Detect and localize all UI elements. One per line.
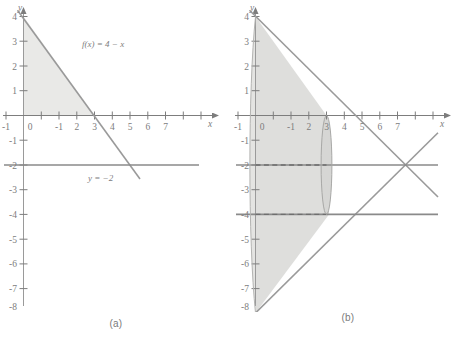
- svg-text:-1: -1: [2, 122, 10, 132]
- svg-text:2: 2: [12, 62, 17, 72]
- svg-text:0: 0: [28, 122, 33, 132]
- svg-text:-1: -1: [55, 122, 63, 132]
- svg-text:-4: -4: [9, 210, 17, 220]
- x-axis-label: x: [207, 119, 213, 129]
- svg-text:-1: -1: [241, 136, 249, 146]
- plot-a-svg: -1 0 -1 2 3 4 5 6 7 4 3 2 1 -1 -2: [0, 0, 232, 312]
- svg-text:2: 2: [244, 62, 249, 72]
- svg-text:7: 7: [163, 122, 168, 132]
- svg-text:4: 4: [12, 12, 17, 22]
- plot-b-svg: -1 0 -1 2 3 4 5 6 7 4 3 2 1 -1 -2: [232, 0, 464, 312]
- svg-text:4: 4: [110, 122, 115, 132]
- y-axis-label: y: [249, 3, 255, 13]
- svg-text:-8: -8: [241, 302, 249, 312]
- svg-text:-7: -7: [241, 284, 249, 294]
- panel-a-caption: (a): [0, 318, 232, 329]
- svg-text:0: 0: [260, 122, 265, 132]
- svg-text:-5: -5: [9, 235, 17, 245]
- svg-text:1: 1: [12, 86, 17, 96]
- svg-text:-1: -1: [287, 122, 295, 132]
- svg-text:-3: -3: [241, 185, 249, 195]
- svg-text:2: 2: [74, 122, 79, 132]
- svg-text:-2: -2: [9, 161, 17, 171]
- svg-text:-4: -4: [241, 210, 249, 220]
- svg-text:-2: -2: [241, 161, 249, 171]
- panel-a: -1 0 -1 2 3 4 5 6 7 4 3 2 1 -1 -2: [0, 0, 232, 343]
- y-axis-label: y: [17, 3, 23, 13]
- panel-b: -1 0 -1 2 3 4 5 6 7 4 3 2 1 -1 -2: [232, 0, 464, 343]
- svg-text:6: 6: [377, 122, 382, 132]
- x-tick-labels: -1 0 -1 2 3 4 5 6 7: [2, 122, 168, 132]
- svg-text:-3: -3: [9, 185, 17, 195]
- svg-text:-6: -6: [241, 259, 249, 269]
- svg-text:5: 5: [128, 122, 133, 132]
- svg-text:-6: -6: [9, 259, 17, 269]
- svg-text:2: 2: [306, 122, 311, 132]
- panel-b-caption: (b): [232, 312, 464, 323]
- svg-text:-1: -1: [234, 122, 242, 132]
- function-label: f(x) = 4 − x: [82, 39, 124, 49]
- svg-text:6: 6: [145, 122, 150, 132]
- svg-text:1: 1: [244, 86, 249, 96]
- svg-text:4: 4: [244, 12, 249, 22]
- y-tick-labels: 4 3 2 1 -1 -2 -3 -4 -5 -6 -7 -8: [241, 12, 249, 312]
- svg-text:-5: -5: [241, 235, 249, 245]
- x-axis-label: x: [439, 119, 445, 129]
- svg-text:-7: -7: [9, 284, 17, 294]
- svg-text:3: 3: [244, 37, 249, 47]
- svg-text:3: 3: [324, 122, 329, 132]
- svg-text:-8: -8: [9, 302, 17, 312]
- svg-text:4: 4: [342, 122, 347, 132]
- plot-a: -1 0 -1 2 3 4 5 6 7 4 3 2 1 -1 -2: [0, 0, 232, 312]
- axis-of-revolution-label: y = −2: [87, 173, 114, 183]
- two-panel-figure: -1 0 -1 2 3 4 5 6 7 4 3 2 1 -1 -2: [0, 0, 464, 343]
- svg-text:7: 7: [395, 122, 400, 132]
- svg-text:3: 3: [92, 122, 97, 132]
- svg-text:5: 5: [360, 122, 365, 132]
- svg-text:-1: -1: [9, 136, 17, 146]
- y-tick-labels: 4 3 2 1 -1 -2 -3 -4 -5 -6 -7 -8: [9, 12, 17, 312]
- plot-b: -1 0 -1 2 3 4 5 6 7 4 3 2 1 -1 -2: [232, 0, 464, 312]
- svg-text:3: 3: [12, 37, 17, 47]
